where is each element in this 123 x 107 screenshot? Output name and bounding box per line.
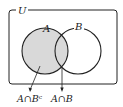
set-b-label: B (74, 21, 82, 32)
caption-a-intersect-b: A∩B (50, 93, 73, 104)
venn-diagram: U A B A∩Bᶜ A∩B (0, 0, 123, 107)
universe-label: U (18, 5, 27, 16)
arrow-head-icon (60, 88, 63, 93)
caption-a-intersect-b-complement: A∩Bᶜ (16, 93, 43, 104)
set-a-label: A (42, 23, 50, 34)
arrow-head-icon (29, 88, 33, 93)
